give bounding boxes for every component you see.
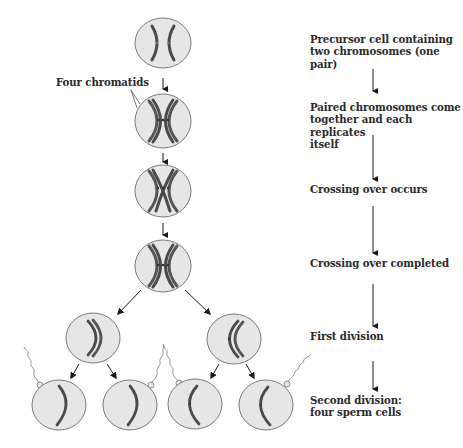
step-label-second-division: Second division: four sperm cells <box>310 394 402 419</box>
sperm-cell-2 <box>103 344 164 430</box>
cell-paired-replicated <box>135 94 191 148</box>
arrow-split-left <box>118 290 141 314</box>
step-label-first-division: First division <box>310 330 384 342</box>
cell-precursor <box>135 18 191 68</box>
flagellum-icon <box>24 347 39 383</box>
four-chromatids-label: Four chromatids <box>56 76 149 88</box>
arrow-right-b <box>246 364 254 378</box>
arrow-split-right <box>185 290 210 314</box>
cell-first-division-right <box>207 314 261 364</box>
sperm-cell-3 <box>164 346 222 429</box>
callout-line <box>131 90 140 104</box>
step-label-crossing-over-completed: Crossing over completed <box>310 257 449 269</box>
sperm-cell-1 <box>24 347 86 430</box>
step-label-precursor: Precursor cell containing two chromosome… <box>310 33 453 70</box>
flagellum-icon <box>151 344 164 383</box>
step-label-paired: Paired chromosomes come together and eac… <box>310 101 463 151</box>
cell-crossing-over-occurs <box>135 165 191 217</box>
arrow-right-a <box>211 364 219 378</box>
arrow-left-a <box>71 364 79 378</box>
arrow-left-b <box>107 364 116 378</box>
flagellum-icon <box>288 354 311 382</box>
cell-first-division-left <box>66 313 120 363</box>
step-label-crossing-over-occurs: Crossing over occurs <box>310 183 428 195</box>
sperm-cell-4 <box>239 354 311 430</box>
callout-line <box>131 90 137 108</box>
flagellum-icon <box>164 346 178 381</box>
cell-crossing-over-completed <box>135 240 191 292</box>
